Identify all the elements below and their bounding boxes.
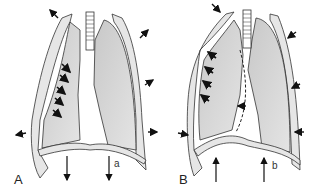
trachea-b [243,10,251,48]
diaphragm-down-arrows-a [67,156,109,180]
diaphragm-up-arrows-b [216,158,264,182]
arrow-label-a: a [114,158,120,169]
panel-b [178,4,304,182]
trachea-a [86,12,94,50]
panel-label-b: B [179,172,188,187]
panel-a [16,10,157,180]
panel-label-a: A [14,172,23,187]
arrow-label-b: b [272,160,278,171]
left-lung-b [199,20,243,140]
